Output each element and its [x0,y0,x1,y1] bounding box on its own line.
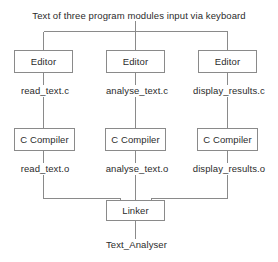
build-pipeline-diagram: Text of three program modules input via … [0,0,278,262]
editor-node-3-label: Editor [215,57,240,67]
compiler-node-2-label: C Compiler [111,135,160,145]
source-file-label-1: read_text.c [0,86,90,96]
editor-node-2-label: Editor [123,57,148,67]
linker-node-label: Linker [122,206,148,216]
compiler-node-3-label: C Compiler [203,135,252,145]
object-file-label-3: display_results.o [183,164,275,174]
editor-node-2: Editor [106,50,165,73]
object-file-label-1: read_text.o [0,164,90,174]
linker-node: Linker [106,200,165,221]
edge-object-1-to-linker [44,175,121,201]
compiler-node-3: C Compiler [197,128,258,151]
object-file-label-2: analyse_text.o [92,164,182,174]
executable-label: Text_Analyser [76,240,197,250]
compiler-node-1: C Compiler [14,128,75,151]
editor-node-1-label: Editor [31,57,56,67]
editor-node-1: Editor [14,50,73,73]
compiler-node-1-label: C Compiler [20,135,69,145]
edge-object-3-to-linker [152,175,228,201]
source-file-label-3: display_results.c [183,86,275,96]
diagram-title: Text of three program modules input via … [0,11,278,21]
editor-node-3: Editor [198,50,257,73]
compiler-node-2: C Compiler [105,128,166,151]
source-file-label-2: analyse_text.c [92,86,182,96]
